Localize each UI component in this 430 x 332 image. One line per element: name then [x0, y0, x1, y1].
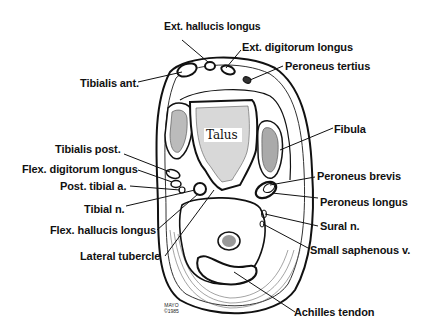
label-lateral-tubercle: Lateral tubercle — [80, 250, 160, 262]
label-tibialis-post: Tibialis post. — [55, 143, 121, 155]
credit-line-2: ©1985 — [164, 308, 179, 314]
label-talus: Talus — [206, 129, 237, 141]
label-sural-n: Sural n. — [320, 220, 360, 232]
label-peroneus-tertius: Peroneus tertius — [285, 60, 370, 72]
label-fibula: Fibula — [334, 123, 366, 135]
label-tibialis-ant: Tibialis ant. — [80, 77, 139, 89]
label-tibial-n: Tibial n. — [84, 203, 124, 215]
label-ext-digitorum-longus: Ext. digitorum longus — [242, 41, 353, 53]
copyright-credit: MAYO ©1985 — [164, 302, 179, 314]
label-small-saphenous-v: Small saphenous v. — [310, 244, 410, 256]
label-flex-hallucis-longus: Flex. hallucis longus — [50, 224, 156, 236]
label-flex-digitorum-longus: Flex. digitorum longus — [22, 163, 138, 175]
label-achilles-tendon: Achilles tendon — [294, 306, 374, 318]
label-peroneus-longus: Peroneus longus — [320, 196, 408, 208]
label-post-tibial-a: Post. tibial a. — [60, 180, 126, 192]
label-ext-hallucis-longus: Ext. hallucis longus — [164, 20, 261, 32]
label-peroneus-brevis: Peroneus brevis — [317, 170, 401, 182]
ankle-cross-section-diagram: Ext. hallucis longus Tibialis ant. Tibia… — [0, 0, 430, 332]
